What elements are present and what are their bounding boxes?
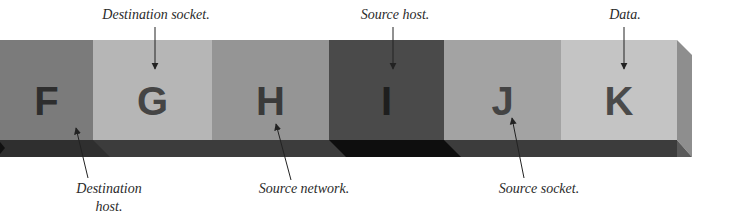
label-line-1: Destination [64, 180, 154, 198]
label-source-host: Source host. [350, 6, 440, 24]
label-destination-socket: Destination socket. [95, 6, 217, 24]
label-data: Data. [600, 6, 650, 24]
label-destination-host: Destination host. [64, 180, 154, 216]
arrow-destination-host [76, 128, 88, 178]
label-source-network: Source network. [254, 180, 354, 198]
arrow-source-socket [512, 118, 524, 178]
label-source-socket: Source socket. [494, 180, 584, 198]
arrow-source-network [276, 124, 291, 180]
field-diagram: F G H I J K Destination socket. Source h… [0, 0, 729, 217]
label-line-2: host. [64, 198, 154, 216]
